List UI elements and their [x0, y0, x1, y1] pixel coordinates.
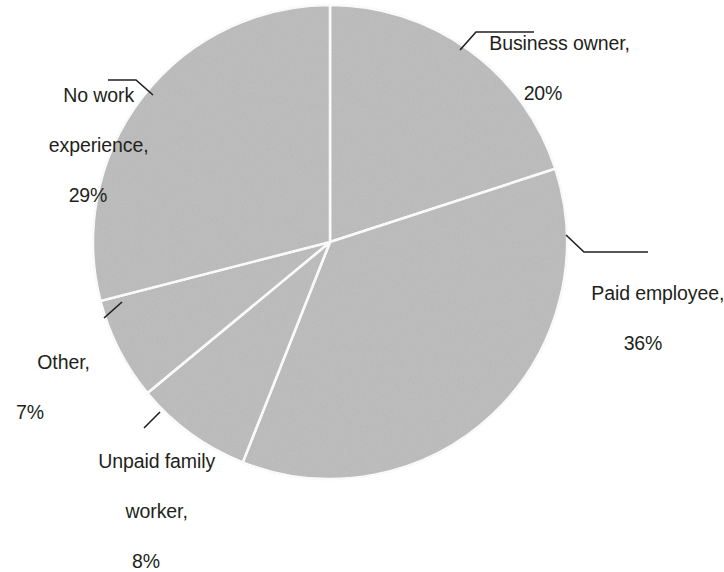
pie-label-other-text: Other, — [37, 351, 90, 373]
pie-label-no-work-experience-percent: 29% — [12, 183, 164, 208]
pie-label-no-work-experience-line1: No work — [63, 84, 134, 106]
pie-label-unpaid-family-worker-percent: 8% — [56, 549, 236, 572]
pie-label-unpaid-family-worker-line2: worker, — [126, 500, 188, 522]
pie-label-business-owner: Business owner, 20% — [468, 6, 618, 156]
pie-label-other-percent: 7% — [16, 400, 136, 425]
pie-label-paid-employee: Paid employee, 36% — [570, 256, 716, 406]
leader-line-paid-employee — [566, 235, 648, 252]
pie-label-no-work-experience-line2: experience, — [49, 134, 149, 156]
pie-label-other: Other, 7% — [16, 325, 136, 475]
pie-label-business-owner-percent: 20% — [468, 81, 618, 106]
pie-label-paid-employee-percent: 36% — [570, 331, 716, 356]
pie-label-paid-employee-text: Paid employee, — [591, 282, 724, 304]
pie-label-business-owner-text: Business owner, — [489, 32, 630, 54]
pie-label-no-work-experience: No work experience, 29% — [12, 58, 164, 258]
